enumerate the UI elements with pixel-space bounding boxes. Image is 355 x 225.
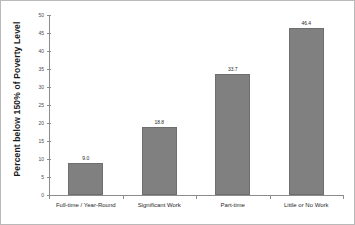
y-tick-mark: 50 <box>47 15 51 16</box>
bar-value-label: 33.7 <box>228 66 238 72</box>
y-tick-mark: 45 <box>47 33 51 34</box>
plot-area: 05101520253035404550 9.018.833.746.4 Ful… <box>49 15 343 195</box>
bar <box>289 28 324 195</box>
y-tick-mark: 15 <box>47 141 51 142</box>
x-tick-mark <box>49 195 50 199</box>
y-tick-label: 35 <box>38 66 44 72</box>
bar <box>215 74 250 195</box>
y-tick-mark: 40 <box>47 51 51 52</box>
y-tick-mark: 20 <box>47 123 51 124</box>
y-tick-label: 25 <box>38 102 44 108</box>
x-category-label: Part-time <box>221 202 245 208</box>
x-tick-mark <box>196 195 197 199</box>
y-tick-label: 45 <box>38 30 44 36</box>
bar-value-label: 9.0 <box>82 155 89 161</box>
x-tick-mark <box>343 195 344 199</box>
y-tick-label: 30 <box>38 84 44 90</box>
x-tick-mark <box>270 195 271 199</box>
y-tick-label: 0 <box>41 192 44 198</box>
bar-value-label: 46.4 <box>301 20 311 26</box>
y-tick-mark: 35 <box>47 69 51 70</box>
y-axis-title-container: Percent below 150% of Poverty Level <box>1 1 31 197</box>
bar <box>68 163 103 195</box>
y-axis-title: Percent below 150% of Poverty Level <box>11 21 21 176</box>
y-tick-mark: 10 <box>47 159 51 160</box>
y-tick-mark: 25 <box>47 105 51 106</box>
y-tick-label: 20 <box>38 120 44 126</box>
x-category-label: Significant Work <box>138 202 181 208</box>
bar-value-label: 18.8 <box>154 119 164 125</box>
y-tick-label: 40 <box>38 48 44 54</box>
x-tick-mark <box>123 195 124 199</box>
y-tick-mark: 30 <box>47 87 51 88</box>
y-tick-mark: 5 <box>47 177 51 178</box>
x-category-label: Full-time / Year-Round <box>56 202 116 208</box>
y-tick-label: 50 <box>38 12 44 18</box>
bar-chart-figure: Percent below 150% of Poverty Level 0510… <box>0 0 355 225</box>
y-tick-label: 5 <box>41 174 44 180</box>
y-tick-label: 10 <box>38 156 44 162</box>
y-tick-label: 15 <box>38 138 44 144</box>
bar <box>142 127 177 195</box>
x-category-label: Little or No Work <box>284 202 329 208</box>
